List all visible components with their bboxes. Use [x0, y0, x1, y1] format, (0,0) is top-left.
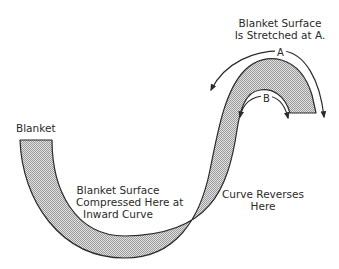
blanket-label: Blanket: [16, 122, 56, 134]
blanket-band: [20, 59, 316, 258]
arrow-a-label: A: [275, 47, 286, 58]
compressed-annotation: Blanket Surface Compressed Here at Inwar…: [76, 184, 160, 220]
stretched-line-1: Blanket Surface: [226, 17, 334, 29]
reverses-line-1: Curve Reverses: [222, 188, 304, 200]
compressed-line-1: Blanket Surface: [76, 184, 160, 196]
reverses-annotation: Curve Reverses Here: [222, 188, 304, 212]
stretched-annotation: Blanket Surface Is Stretched at A.: [226, 17, 334, 41]
compressed-line-2: Compressed Here at: [76, 196, 160, 208]
compressed-line-3: Inward Curve: [76, 208, 160, 220]
arrow-b-label: B: [261, 93, 272, 104]
stretched-line-2: Is Stretched at A.: [226, 29, 334, 41]
reverses-line-2: Here: [222, 200, 304, 212]
